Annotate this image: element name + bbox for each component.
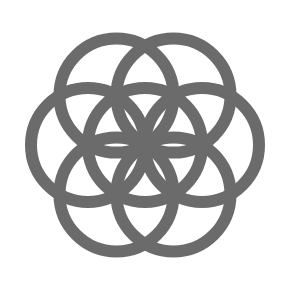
seed-of-life-figure: Seed of Life [0, 0, 288, 289]
seed-of-life-icon [0, 0, 288, 289]
